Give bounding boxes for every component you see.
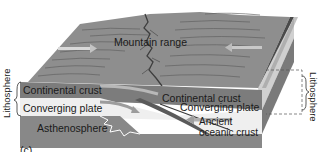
label-lithosphere-left: Lithosphere [2, 68, 12, 118]
label-asthenosphere: Asthenosphere [37, 123, 108, 134]
label-ancient-oceanic-crust-line2: oceanic crust [199, 128, 258, 138]
label-mountain-range: Mountain range [114, 37, 187, 48]
panel-label: (c) [20, 145, 32, 152]
label-converging-plate-left: Converging plate [23, 103, 102, 114]
label-converging-plate-right: Converging plate [180, 102, 259, 113]
plate-convergence-diagram: Mountain range Continental crust Contine… [0, 0, 318, 152]
surface-top [28, 12, 290, 88]
lithosphere-brace-left [14, 82, 21, 116]
label-continental-crust-left: Continental crust [23, 85, 102, 96]
label-ancient-oceanic-crust-line1: Ancient [199, 117, 232, 127]
label-lithosphere-right: Lithosphere [309, 72, 319, 122]
